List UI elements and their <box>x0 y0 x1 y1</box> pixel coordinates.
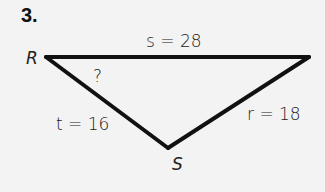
triangle-side-t <box>46 57 168 148</box>
side-label-r: r = 18 <box>247 104 301 124</box>
unknown-angle-label: ? <box>93 66 102 86</box>
triangle-diagram: R S s = 28 t = 16 r = 18 ? <box>0 0 325 192</box>
side-label-t: t = 16 <box>56 114 109 134</box>
triangle-side-r <box>168 57 309 148</box>
side-label-s: s = 28 <box>146 31 202 51</box>
vertex-label-s: S <box>172 154 183 174</box>
vertex-label-r: R <box>26 48 38 68</box>
